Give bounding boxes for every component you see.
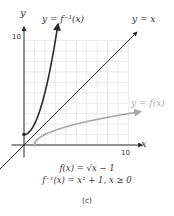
x-tick-10: 10 [121,149,130,157]
y-axis-label: y [20,7,26,18]
f-curve [34,112,140,145]
x-axis-label: x [141,138,147,149]
finv-start-point [22,133,26,137]
caption-f: f(x) = √x − 1 [0,163,174,173]
caption-finv: f⁻¹(x) = x² + 1, x ≥ 0 [0,175,174,185]
y-tick-10: 10 [12,33,21,41]
f-curve-label: y = f(x) [131,98,165,108]
panel-label: (c) [0,196,174,205]
identity-line-label: y = x [132,14,155,24]
identity-line [0,32,137,169]
curves [0,24,141,169]
f-start-point [33,143,37,147]
finv-curve-label: y = f⁻¹(x) [42,14,84,24]
